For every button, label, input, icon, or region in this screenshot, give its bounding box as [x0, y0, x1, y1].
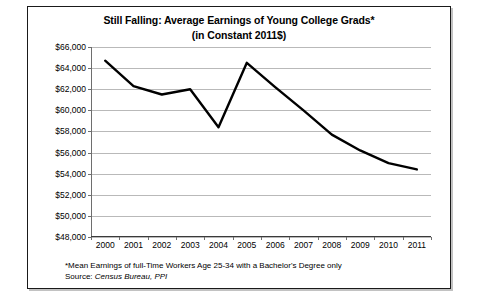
x-tick-label: 2000 [96, 240, 115, 250]
y-tick-label: $50,000 [55, 211, 86, 221]
chart-subtitle: (in Constant 2011$) [28, 28, 450, 43]
y-tick-label: $58,000 [55, 126, 86, 136]
footnote-block: *Mean Earnings of full-Time Workers Age … [65, 260, 445, 282]
y-tick-label: $64,000 [55, 63, 86, 73]
source-value: Census Bureau, PPI [95, 272, 167, 281]
y-tick-label: $52,000 [55, 190, 86, 200]
x-tick-label: 2003 [181, 240, 200, 250]
x-tick-label: 2001 [124, 240, 143, 250]
data-series-line [91, 47, 431, 237]
y-tick-label: $60,000 [55, 105, 86, 115]
y-tick-label: $66,000 [55, 42, 86, 52]
plot-area [91, 47, 431, 237]
y-tick-label: $48,000 [55, 232, 86, 242]
x-tick-label: 2010 [379, 240, 398, 250]
y-tick-label: $54,000 [55, 169, 86, 179]
y-axis-labels: $48,000$50,000$52,000$54,000$56,000$58,0… [28, 47, 86, 237]
chart-title: Still Falling: Average Earnings of Young… [28, 13, 450, 28]
x-tick-label: 2008 [322, 240, 341, 250]
x-tick-label: 2005 [237, 240, 256, 250]
x-tick-label: 2011 [408, 240, 426, 250]
chart-title-block: Still Falling: Average Earnings of Young… [28, 13, 450, 43]
chart-container: Still Falling: Average Earnings of Young… [27, 6, 451, 289]
x-tick-mark [431, 237, 432, 240]
y-tick-label: $62,000 [55, 84, 86, 94]
x-tick-label: 2002 [152, 240, 171, 250]
x-tick-label: 2009 [351, 240, 370, 250]
x-tick-label: 2007 [294, 240, 313, 250]
source-label: Source: [65, 272, 95, 281]
x-axis-labels: 2000200120022003200420052006200720082009… [91, 240, 431, 256]
footnote-source: Source: Census Bureau, PPI [65, 271, 445, 282]
y-tick-label: $56,000 [55, 148, 86, 158]
x-tick-label: 2004 [209, 240, 228, 250]
x-tick-label: 2006 [266, 240, 285, 250]
footnote-note: *Mean Earnings of full-Time Workers Age … [65, 260, 445, 271]
